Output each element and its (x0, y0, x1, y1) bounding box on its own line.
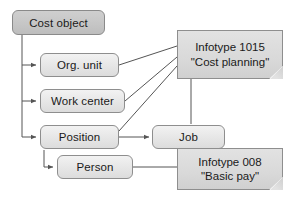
node-org-unit[interactable]: Org. unit (40, 53, 119, 77)
node-label: Work center (51, 95, 114, 107)
note-line-2: "Cost planning" (191, 55, 270, 69)
diagram-canvas: Cost object Org. unit Work center Positi… (0, 0, 292, 197)
node-label: Position (59, 131, 101, 143)
node-label: Org. unit (57, 59, 102, 71)
note-infotype-008[interactable]: Infotype 008 "Basic pay" (177, 148, 283, 190)
note-fold-corner-icon (269, 66, 283, 79)
node-work-center[interactable]: Work center (40, 89, 125, 113)
node-label: Cost object (29, 17, 88, 29)
node-job[interactable]: Job (152, 125, 225, 149)
edge-org-unit-infotype-1015 (119, 46, 177, 65)
node-person[interactable]: Person (57, 155, 133, 179)
node-position[interactable]: Position (40, 125, 119, 149)
note-line-2: "Basic pay" (201, 169, 259, 183)
note-infotype-1015[interactable]: Infotype 1015 "Cost planning" (177, 30, 283, 79)
node-label: Job (179, 131, 198, 143)
note-fold-corner-icon (269, 177, 283, 190)
node-cost-object[interactable]: Cost object (12, 10, 105, 35)
note-line-1: Infotype 008 (198, 155, 261, 169)
note-line-1: Infotype 1015 (195, 40, 265, 54)
edge-position-person (44, 150, 53, 167)
node-label: Person (76, 161, 113, 173)
